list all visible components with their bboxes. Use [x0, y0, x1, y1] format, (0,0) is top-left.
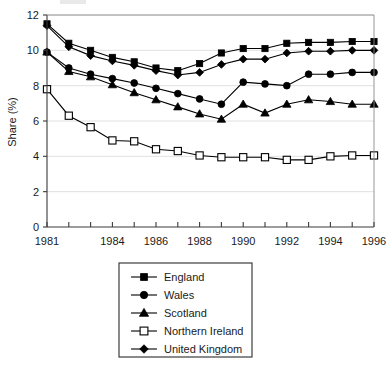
data-point-marker — [262, 81, 269, 88]
data-point-marker — [131, 138, 138, 145]
data-point-marker — [109, 137, 116, 144]
data-point-marker — [305, 156, 312, 163]
data-point-marker — [349, 38, 355, 44]
legend-label: United Kingdom — [164, 343, 242, 355]
data-point-marker — [283, 82, 290, 89]
data-point-marker — [327, 39, 333, 45]
data-point-marker — [196, 152, 203, 159]
data-point-marker — [305, 71, 312, 78]
legend-item-northern-ireland[interactable]: Northern Ireland — [131, 325, 244, 337]
data-point-marker — [349, 69, 356, 76]
legend-label: Northern Ireland — [164, 325, 244, 337]
data-point-marker — [327, 71, 334, 78]
data-point-marker — [240, 154, 247, 161]
x-tick-label: 1994 — [318, 235, 342, 247]
legend-label: England — [164, 271, 204, 283]
data-point-marker — [140, 327, 148, 335]
data-point-marker — [218, 50, 224, 56]
y-tick-label: 10 — [27, 44, 39, 56]
data-point-marker — [141, 274, 148, 281]
data-point-marker — [153, 85, 160, 92]
data-point-marker — [196, 96, 203, 103]
data-point-marker — [284, 40, 290, 46]
share-line-chart: 024681012 198119841986198819901992199419… — [0, 0, 389, 365]
data-point-marker — [218, 101, 225, 108]
legend-label: Scotland — [164, 307, 207, 319]
y-tick-label: 12 — [27, 9, 39, 21]
data-point-marker — [174, 90, 181, 97]
data-point-marker — [240, 79, 247, 86]
data-point-marker — [197, 60, 203, 66]
data-point-marker — [152, 146, 159, 153]
x-tick-label: 1981 — [35, 235, 59, 247]
data-point-marker — [261, 154, 268, 161]
x-tick-label: 1996 — [362, 235, 386, 247]
y-tick-label: 0 — [33, 221, 39, 233]
data-point-marker — [131, 80, 138, 87]
legend-label: Wales — [164, 289, 195, 301]
data-point-marker — [283, 156, 290, 163]
x-tick-label: 1986 — [144, 235, 168, 247]
y-tick-label: 2 — [33, 186, 39, 198]
y-tick-label: 6 — [33, 115, 39, 127]
data-point-marker — [65, 112, 72, 119]
data-point-marker — [140, 291, 147, 298]
data-point-marker — [240, 45, 246, 51]
y-tick-label: 4 — [33, 150, 39, 162]
data-point-marker — [327, 153, 334, 160]
scan-artifact — [60, 0, 86, 4]
data-point-marker — [218, 154, 225, 161]
legend: EnglandWalesScotlandNorthern IrelandUnit… — [119, 263, 252, 357]
x-tick-label: 1992 — [275, 235, 299, 247]
x-tick-label: 1984 — [100, 235, 124, 247]
data-point-marker — [87, 124, 94, 131]
y-axis-label: Share (%) — [6, 97, 18, 147]
x-tick-label: 1990 — [231, 235, 255, 247]
data-point-marker — [306, 39, 312, 45]
x-tick-label: 1988 — [187, 235, 211, 247]
data-point-marker — [174, 147, 181, 154]
data-point-marker — [349, 152, 356, 159]
y-tick-label: 8 — [33, 80, 39, 92]
data-point-marker — [262, 45, 268, 51]
